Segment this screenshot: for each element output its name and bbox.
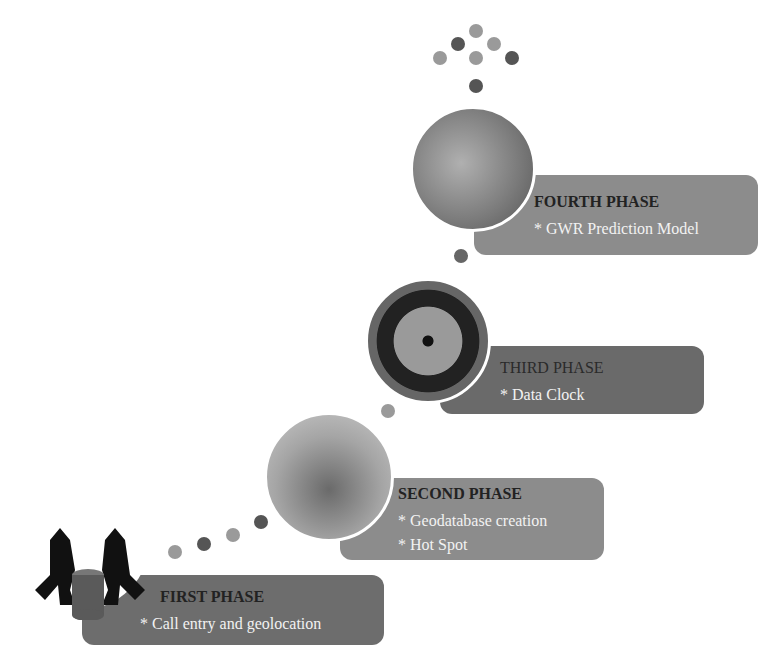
first-phase-title: FIRST PHASE [160,588,264,606]
workers-database-icon [30,520,150,620]
second-phase-item: * Geodatabase creation [398,512,547,530]
fourth-phase-item: * GWR Prediction Model [534,220,699,238]
third-phase-title: THIRD PHASE [500,359,604,377]
arrow-dot [469,24,483,38]
second-phase-title: SECOND PHASE [398,485,522,503]
connector-dot [226,528,240,542]
connector-dot [197,537,211,551]
connector-dot [168,545,182,559]
second-phase-item: * Hot Spot [398,536,467,554]
map-image [264,412,394,542]
first-phase-item: * Call entry and geolocation [140,615,321,633]
connector-dot [254,515,268,529]
third-phase-item: * Data Clock [500,386,584,404]
arrow-dot [505,51,519,65]
data-clock-image [365,278,491,404]
fourth-phase-title: FOURTH PHASE [534,193,659,211]
arrow-dot [487,37,501,51]
arrow-dot [451,37,465,51]
gwr-model-image [410,106,536,232]
arrow-dot [469,51,483,65]
connector-dot [454,249,468,263]
arrow-dot [469,79,483,93]
arrow-dot [433,51,447,65]
connector-dot [381,404,395,418]
